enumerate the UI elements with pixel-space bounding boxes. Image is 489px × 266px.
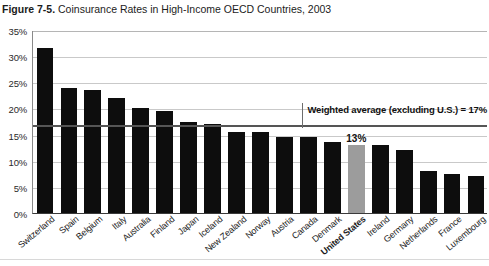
bar-canada xyxy=(300,137,317,213)
bar-italy xyxy=(108,98,125,213)
x-axis-label-norway: Norway xyxy=(243,214,272,241)
y-axis: 0%5%10%15%20%25%30%35% xyxy=(0,31,30,214)
y-axis-tick-label: 0% xyxy=(14,209,27,220)
bar-france xyxy=(444,174,461,213)
x-axis-label-finland: Finland xyxy=(148,214,176,240)
bar-ireland xyxy=(372,145,389,213)
bar-united-states xyxy=(348,145,365,213)
plot-area: 13% Weighted average (excluding U.S.) = … xyxy=(32,31,487,214)
y-axis-tick-label: 20% xyxy=(9,104,27,115)
bar-iceland xyxy=(204,124,221,213)
reference-line-label: Weighted average (excluding U.S.) = 17% xyxy=(302,103,487,128)
x-axis-label-japan: Japan xyxy=(176,214,200,237)
bar-luxembourg xyxy=(468,176,485,213)
bar-austria xyxy=(276,137,293,213)
bar-australia xyxy=(132,108,149,213)
x-axis-label-italy: Italy xyxy=(110,214,128,232)
figure-caption: Figure 7-5. Coinsurance Rates in High-In… xyxy=(2,0,488,18)
figure-title: Coinsurance Rates in High-Income OECD Co… xyxy=(58,3,331,15)
scan-artifact-line xyxy=(0,259,489,260)
bar-data-label: 13% xyxy=(346,133,366,144)
y-axis-tick-label: 5% xyxy=(14,182,27,193)
y-axis-tick-label: 30% xyxy=(9,52,27,63)
y-axis-tick-label: 10% xyxy=(9,156,27,167)
chart-figure: 0%5%10%15%20%25%30%35% 13% Weighted aver… xyxy=(0,18,489,266)
y-axis-tick-label: 25% xyxy=(9,78,27,89)
bar-japan xyxy=(180,122,197,214)
bar-switzerland xyxy=(37,48,54,213)
bar-spain xyxy=(61,88,78,213)
figure-number: Figure 7-5. xyxy=(2,3,55,15)
bar-denmark xyxy=(324,142,341,213)
bar-belgium xyxy=(84,90,101,213)
bar-new-zealand xyxy=(228,132,245,213)
y-axis-tick-label: 35% xyxy=(9,26,27,37)
y-axis-tick-label: 15% xyxy=(9,130,27,141)
bar-netherlands xyxy=(420,171,437,213)
x-axis-label-belgium: Belgium xyxy=(74,214,104,242)
bar-germany xyxy=(396,150,413,213)
bar-norway xyxy=(252,132,269,213)
